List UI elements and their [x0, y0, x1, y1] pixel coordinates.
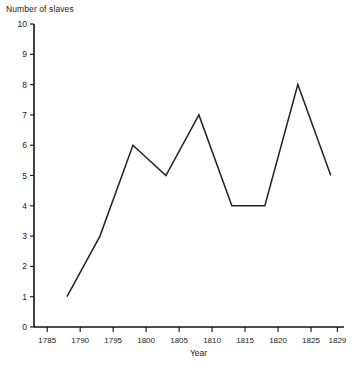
- data-line-number-of-slaves: [67, 85, 331, 297]
- x-tick-label: 1829: [329, 336, 347, 345]
- x-axis: 1785179017951800180518101815182018251829: [34, 327, 347, 345]
- x-tick-label: 1800: [137, 336, 155, 345]
- x-tick-label: 1810: [203, 336, 221, 345]
- x-axis-ticks: 1785179017951800180518101815182018251829: [38, 327, 347, 345]
- y-tick-label: 5: [22, 171, 27, 181]
- y-tick-label: 4: [22, 201, 27, 211]
- x-tick-label: 1790: [71, 336, 89, 345]
- y-tick-label: 9: [22, 49, 27, 59]
- data-series-group: [67, 85, 331, 297]
- y-tick-label: 0: [22, 322, 27, 332]
- y-tick-label: 8: [22, 80, 27, 90]
- y-tick-label: 3: [22, 231, 27, 241]
- x-tick-label: 1785: [38, 336, 56, 345]
- y-axis-ticks: 012345678910: [18, 19, 34, 332]
- x-tick-label: 1805: [170, 336, 188, 345]
- y-tick-label: 10: [18, 19, 28, 29]
- line-chart: Number of slaves Year 012345678910 17851…: [0, 0, 355, 366]
- y-tick-label: 2: [22, 261, 27, 271]
- y-tick-label: 1: [22, 292, 27, 302]
- y-axis: 012345678910: [18, 19, 34, 332]
- chart-canvas: 012345678910 178517901795180018051810181…: [0, 0, 355, 366]
- y-tick-label: 6: [22, 140, 27, 150]
- x-tick-label: 1825: [302, 336, 320, 345]
- x-tick-label: 1795: [104, 336, 122, 345]
- x-tick-label: 1815: [236, 336, 254, 345]
- x-tick-label: 1820: [269, 336, 287, 345]
- y-tick-label: 7: [22, 110, 27, 120]
